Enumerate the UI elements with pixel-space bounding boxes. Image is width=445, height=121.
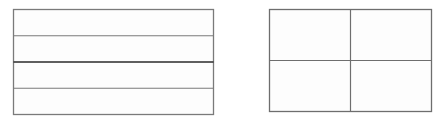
rectangle-four-quadrants xyxy=(270,10,432,112)
rectangle-four-horizontal-strips xyxy=(14,10,214,115)
diagram-canvas xyxy=(0,0,445,121)
